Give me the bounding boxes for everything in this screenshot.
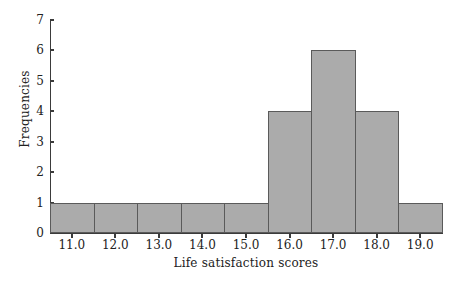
x-tick-label: 18.0 [355,238,399,252]
x-tick-label: 15.0 [224,238,268,252]
x-tick-label: 14.0 [181,238,225,252]
histogram-bar [137,203,182,233]
histogram-bar [94,203,139,233]
y-tick-label: 4 [30,105,44,117]
histogram-bar [311,50,356,233]
x-tick-label: 12.0 [94,238,138,252]
y-tick-label: 3 [30,136,44,148]
histogram-figure: Frequencies 01234567 11.012.013.014.015.… [0,0,456,286]
y-tick-label: 2 [30,166,44,178]
y-axis-title: Frequencies [18,0,36,252]
x-axis-title: Life satisfaction scores [50,256,442,270]
x-tick-label: 19.0 [398,238,442,252]
y-tick-mark [50,171,54,173]
x-tick-label: 17.0 [311,238,355,252]
histogram-bar [224,203,269,233]
y-tick-label: 1 [30,197,44,209]
y-tick-mark [50,141,54,143]
histogram-bar [268,111,313,233]
x-tick-label: 13.0 [137,238,181,252]
y-tick-label: 0 [30,227,44,239]
x-tick-label: 11.0 [50,238,94,252]
y-tick-label: 7 [30,14,44,26]
histogram-bar [181,203,226,233]
y-tick-label: 6 [30,44,44,56]
y-tick-label: 5 [30,75,44,87]
y-tick-mark [50,80,54,82]
histogram-bar [398,203,443,233]
y-tick-mark [50,110,54,112]
histogram-bar [50,203,95,233]
y-tick-mark [50,49,54,51]
x-tick-label: 16.0 [268,238,312,252]
histogram-bar [355,111,400,233]
y-tick-mark [50,19,54,21]
